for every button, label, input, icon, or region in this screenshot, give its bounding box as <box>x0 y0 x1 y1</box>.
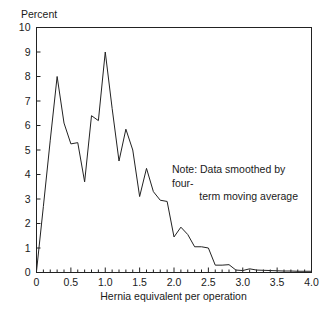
chart-figure: Percent Note: Data smoothed by four- ter… <box>0 0 333 313</box>
y-axis-title: Percent <box>21 8 57 20</box>
x-tick-label: 4.0 <box>292 277 332 288</box>
data-series-line <box>37 52 312 271</box>
y-tick-label: 3 <box>7 194 31 205</box>
y-tick-label: 2 <box>7 218 31 229</box>
plot-canvas <box>0 0 333 313</box>
y-tick-label: 9 <box>7 47 31 58</box>
y-tick-label: 6 <box>7 120 31 131</box>
chart-note: Note: Data smoothed by four- term moving… <box>172 163 308 204</box>
y-tick-label: 5 <box>7 145 31 156</box>
y-tick-label: 10 <box>7 22 31 33</box>
y-tick-label: 1 <box>7 243 31 254</box>
chart-note-line-2: term moving average <box>172 190 308 204</box>
y-tick-label: 4 <box>7 169 31 180</box>
y-tick-label: 8 <box>7 71 31 82</box>
x-axis-title: Hernia equivalent per operation <box>36 290 311 302</box>
chart-note-line-1: Note: Data smoothed by four- <box>172 163 308 190</box>
y-tick-label: 7 <box>7 96 31 107</box>
